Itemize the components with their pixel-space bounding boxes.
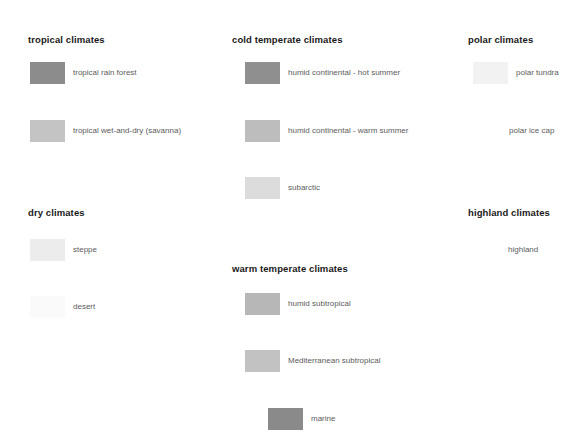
legend-entry-label: Mediterranean subtropical bbox=[288, 356, 381, 366]
legend-entry-humid-subtropical: humid subtropical bbox=[245, 293, 351, 315]
color-swatch-desert bbox=[30, 296, 65, 318]
color-swatch-subarctic bbox=[245, 177, 280, 199]
legend-group-polar: polar climates bbox=[468, 34, 533, 45]
legend-entry-label: tropical wet-and-dry (savanna) bbox=[73, 126, 181, 136]
legend-entry-label: polar tundra bbox=[516, 68, 559, 78]
legend-entry-label: tropical rain forest bbox=[73, 68, 137, 78]
legend-group-heading: tropical climates bbox=[28, 34, 105, 45]
legend-entry-tropical-wet-and-dry: tropical wet-and-dry (savanna) bbox=[30, 120, 181, 142]
legend-group-highland: highland climates bbox=[468, 207, 550, 218]
legend-group-heading: warm temperate climates bbox=[232, 263, 348, 274]
climate-legend: tropical climates tropical rain forest t… bbox=[0, 0, 584, 446]
legend-entry-polar-tundra: polar tundra bbox=[473, 62, 559, 84]
legend-group-heading: cold temperate climates bbox=[232, 34, 343, 45]
color-swatch-humid-subtropical bbox=[245, 293, 280, 315]
color-swatch-highland bbox=[465, 239, 500, 261]
legend-group-heading: polar climates bbox=[468, 34, 533, 45]
color-swatch-mediterranean-subtropical bbox=[245, 350, 280, 372]
color-swatch-steppe bbox=[30, 239, 65, 261]
legend-entry-label: polar ice cap bbox=[509, 126, 554, 136]
legend-entry-label: subarctic bbox=[288, 183, 320, 193]
legend-group-heading: dry climates bbox=[28, 207, 85, 218]
legend-entry-label: marine bbox=[311, 414, 335, 424]
legend-entry-humid-continental-warm-summer: humid continental - warm summer bbox=[245, 120, 408, 142]
legend-entry-label: steppe bbox=[73, 245, 97, 255]
legend-group-tropical: tropical climates bbox=[28, 34, 105, 45]
legend-entry-tropical-rain-forest: tropical rain forest bbox=[30, 62, 137, 84]
legend-entry-label: highland bbox=[508, 245, 538, 255]
legend-entry-polar-ice-cap: polar ice cap bbox=[466, 120, 554, 142]
legend-entry-highland: highland bbox=[465, 239, 538, 261]
legend-entry-subarctic: subarctic bbox=[245, 177, 320, 199]
color-swatch-marine bbox=[268, 408, 303, 430]
legend-entry-label: desert bbox=[73, 302, 95, 312]
legend-group-warm-temperate: warm temperate climates bbox=[232, 263, 348, 274]
legend-entry-humid-continental-hot-summer: humid continental - hot summer bbox=[245, 62, 400, 84]
color-swatch-humid-continental-hot-summer bbox=[245, 62, 280, 84]
legend-entry-label: humid subtropical bbox=[288, 299, 351, 309]
legend-entry-steppe: steppe bbox=[30, 239, 97, 261]
legend-entry-mediterranean-subtropical: Mediterranean subtropical bbox=[245, 350, 381, 372]
legend-entry-marine: marine bbox=[268, 408, 335, 430]
color-swatch-humid-continental-warm-summer bbox=[245, 120, 280, 142]
legend-group-heading: highland climates bbox=[468, 207, 550, 218]
color-swatch-polar-tundra bbox=[473, 62, 508, 84]
legend-entry-label: humid continental - warm summer bbox=[288, 126, 408, 136]
color-swatch-tropical-wet-and-dry bbox=[30, 120, 65, 142]
legend-entry-label: humid continental - hot summer bbox=[288, 68, 400, 78]
legend-entry-desert: desert bbox=[30, 296, 95, 318]
legend-group-cold-temperate: cold temperate climates bbox=[232, 34, 343, 45]
color-swatch-polar-ice-cap bbox=[466, 120, 501, 142]
legend-group-dry: dry climates bbox=[28, 207, 85, 218]
color-swatch-tropical-rain-forest bbox=[30, 62, 65, 84]
